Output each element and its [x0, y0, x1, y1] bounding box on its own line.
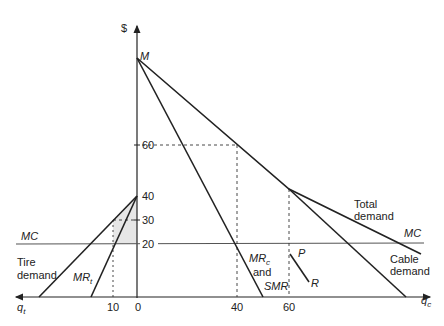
cable-demand-label-1: Cable — [390, 253, 419, 265]
x-tick-10: 10 — [107, 301, 119, 313]
y-axis-label: $ — [121, 22, 127, 34]
total-demand-label-2: demand — [354, 210, 394, 222]
y-tick-60: 60 — [142, 139, 154, 151]
smr-label: SMR — [264, 280, 289, 292]
y-tick-30: 30 — [142, 214, 154, 226]
mc-left-label: MC — [21, 230, 38, 242]
tire-demand-label-2: demand — [17, 269, 57, 281]
y-tick-40: 40 — [142, 190, 154, 202]
mrc-label: MRc — [249, 252, 270, 267]
diagram: $ M 60 40 30 20 20 10 0 40 60 qt qc MC M… — [0, 0, 444, 326]
mrt-line — [91, 196, 137, 297]
total-demand-line — [137, 58, 421, 254]
mrt-label: MRt — [73, 271, 93, 286]
mrc-smr-line — [137, 58, 263, 297]
total-demand-label-1: Total — [354, 198, 377, 210]
x-axis-right-label: qc — [421, 294, 431, 309]
mc-line — [16, 243, 424, 244]
cable-demand-label-2: demand — [390, 265, 430, 277]
point-m-label: M — [140, 50, 150, 62]
point-p-label: P — [298, 247, 306, 259]
x-tick-60: 60 — [283, 301, 295, 313]
x-tick-0: 0 — [135, 301, 141, 313]
point-r-label: R — [311, 277, 319, 289]
y-tick-20-front: 20 — [142, 238, 154, 250]
mc-right-label: MC — [404, 227, 421, 239]
x-axis-left-label: qt — [17, 301, 26, 316]
x-tick-40: 40 — [231, 301, 243, 313]
tire-demand-label-1: Tire — [17, 256, 36, 268]
mrc-and-label: and — [253, 266, 271, 278]
